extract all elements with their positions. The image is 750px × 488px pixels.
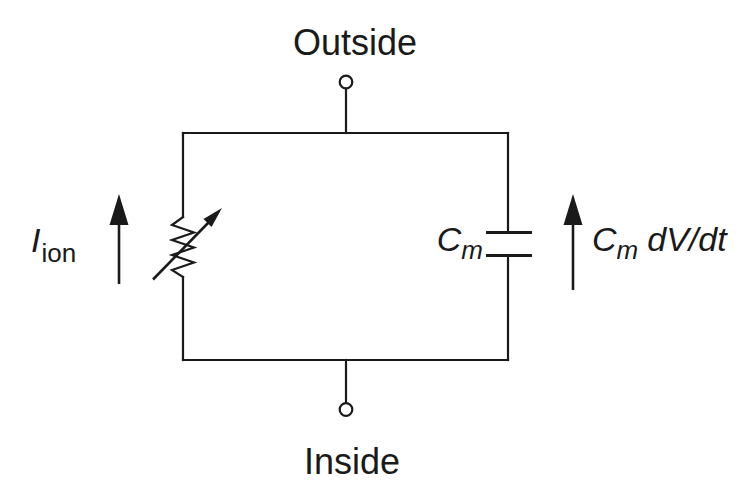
capacitive-current-symbol: C — [592, 220, 617, 258]
capacitive-current-expression: dV/dt — [647, 220, 728, 258]
capacitive-current-arrowhead — [564, 194, 583, 225]
ion-current-symbol: I — [31, 221, 41, 259]
capacitive-current-subscript: m — [617, 235, 639, 265]
capacitance-label: Cm — [437, 220, 483, 265]
ion-current-arrowhead — [110, 194, 129, 225]
outside-terminal-node — [340, 76, 353, 89]
variable-resistor-arrow-shaft — [153, 222, 209, 280]
membrane-equivalent-circuit-figure: Outside Iion Cm — [0, 0, 750, 488]
inside-terminal-node — [340, 403, 353, 416]
ion-current-subscript: ion — [41, 238, 76, 268]
capacitive-current-label: CmdV/dt — [592, 220, 728, 265]
capacitance-symbol: C — [437, 220, 462, 258]
capacitance-subscript: m — [461, 235, 483, 265]
circuit-svg: Outside Iion Cm — [0, 0, 750, 488]
outside-label: Outside — [293, 22, 417, 63]
inside-label: Inside — [304, 441, 400, 482]
ion-current-label: Iion — [31, 221, 76, 268]
